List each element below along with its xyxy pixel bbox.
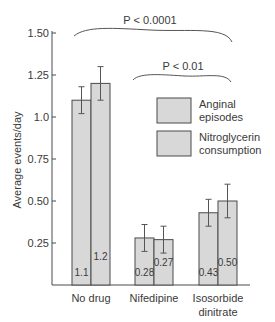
brace-p0001 xyxy=(74,28,232,42)
y-tick-label: 1.25 xyxy=(28,69,49,81)
legend-swatch xyxy=(157,98,191,123)
bar-value-label: 0.27 xyxy=(154,257,174,268)
y-axis-label: Average events/day xyxy=(11,111,23,209)
x-tick-label: Nifedipine xyxy=(130,292,179,304)
brace-p001 xyxy=(133,75,231,82)
x-tick-label: dinitrate xyxy=(198,306,237,318)
legend-label: consumption xyxy=(199,144,261,156)
x-tick-label: No drug xyxy=(71,292,110,304)
significance-annotations: P < 0.0001P < 0.01 xyxy=(74,14,232,82)
legend: AnginalepisodesNitroglycerinconsumption xyxy=(157,98,261,156)
y-tick-label: 0.75 xyxy=(28,153,49,165)
y-tick-label: 1.50 xyxy=(28,27,49,39)
x-tick-label: Isosorbide xyxy=(193,292,244,304)
bar-value-label: 1.2 xyxy=(94,251,108,262)
bar-value-label: 0.28 xyxy=(135,267,155,278)
x-axis-labels: No drugNifedipineIsosorbidedinitrate xyxy=(71,292,243,318)
bar xyxy=(72,100,91,285)
legend-swatch xyxy=(157,131,191,156)
y-tick-label: 0.25 xyxy=(28,237,49,249)
annotation-p001: P < 0.01 xyxy=(162,60,203,72)
bar-value-label: 0.43 xyxy=(199,267,219,278)
legend-label: Anginal xyxy=(199,98,236,110)
annotation-p0001: P < 0.0001 xyxy=(123,14,176,26)
y-tick-label: 0.50 xyxy=(28,195,49,207)
bar-value-label: 0.50 xyxy=(218,257,238,268)
legend-label: episodes xyxy=(199,111,244,123)
bar-chart: Average events/day 0.250.500.751.01.251.… xyxy=(0,0,275,322)
legend-label: Nitroglycerin xyxy=(199,131,260,143)
bar-value-label: 1.1 xyxy=(75,267,89,278)
y-tick-label: 1.0 xyxy=(34,111,49,123)
